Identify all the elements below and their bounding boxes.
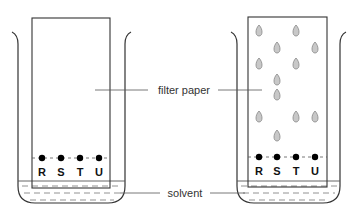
spot-t — [293, 25, 299, 36]
left-letter-t: T — [77, 166, 84, 178]
separated-spots — [256, 25, 318, 141]
spot-r — [256, 58, 262, 69]
right-letter-s: S — [273, 165, 280, 177]
spot-s — [274, 74, 280, 85]
spot-s — [274, 42, 280, 53]
left-letter-s: S — [57, 166, 64, 178]
spot-r — [256, 111, 262, 122]
spot-t — [293, 111, 299, 122]
left-beaker: R S T U — [12, 18, 131, 203]
right-beaker: R S T U — [231, 17, 346, 203]
spot-s — [274, 89, 280, 100]
spot-s — [274, 130, 280, 141]
chromatography-diagram: R S T U R S T U filter paper — [0, 0, 353, 213]
spot-r — [256, 25, 262, 36]
solvent-label: solvent — [168, 187, 203, 199]
solvent-label-group: solvent — [120, 187, 245, 199]
spot-u — [312, 111, 318, 122]
right-letter-r: R — [255, 165, 263, 177]
left-beaker-wall — [12, 32, 131, 203]
filter-paper-label: filter paper — [158, 84, 210, 96]
right-letter-t: T — [293, 165, 300, 177]
spot-t — [293, 58, 299, 69]
right-letter-u: U — [311, 165, 319, 177]
spot-u — [312, 42, 318, 53]
left-letter-r: R — [38, 166, 46, 178]
left-letter-u: U — [95, 166, 103, 178]
right-solvent-dashes — [241, 186, 337, 200]
left-filter-paper — [32, 18, 110, 188]
